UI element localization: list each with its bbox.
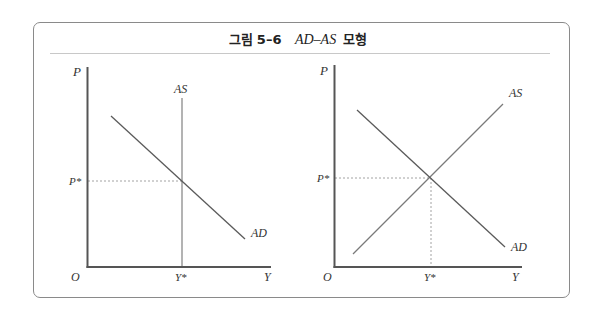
right-p-star-label: P* xyxy=(316,172,330,184)
left-panel: P AS P* AD O Y* Y xyxy=(68,64,272,284)
left-y-axis-label: P xyxy=(72,64,81,79)
left-ad-label: AD xyxy=(250,226,267,240)
left-ad-curve xyxy=(111,116,245,239)
right-ad-label: AD xyxy=(510,240,527,254)
right-as-label: AS xyxy=(508,86,522,100)
left-p-star-label: P* xyxy=(68,175,82,187)
left-y-star-label: Y* xyxy=(175,271,187,283)
left-x-axis-label: Y xyxy=(264,270,272,284)
right-y-axis-label: P xyxy=(319,63,328,78)
ad-as-diagrams: P AS P* AD O Y* Y P AS P* AD O Y* Y xyxy=(0,0,596,320)
right-y-star-label: Y* xyxy=(424,271,436,283)
right-origin-label: O xyxy=(323,270,332,284)
right-panel: P AS P* AD O Y* Y xyxy=(316,63,527,284)
left-origin-label: O xyxy=(71,270,80,284)
left-as-label: AS xyxy=(173,82,187,96)
right-x-axis-label: Y xyxy=(512,270,520,284)
